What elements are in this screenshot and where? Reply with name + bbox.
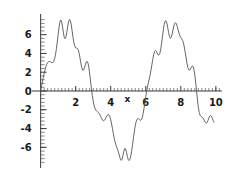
y-tick-label: 2 <box>25 67 32 78</box>
y-tick-label: -2 <box>21 104 32 115</box>
x-tick-label: 10 <box>209 97 223 108</box>
x-tick-label: 4 <box>107 97 114 108</box>
chart-container: 246810 -6-4-20246 x <box>0 0 235 175</box>
y-tick-label: 4 <box>25 48 32 59</box>
y-axis-tick-labels: -6-4-20246 <box>21 29 32 153</box>
y-tick-label: -4 <box>21 123 32 134</box>
y-tick-label: -6 <box>21 142 32 153</box>
x-axis-title: x <box>124 94 130 104</box>
y-tick-label: 0 <box>25 86 32 97</box>
x-tick-label: 8 <box>177 97 184 108</box>
y-tick-label: 6 <box>25 29 32 40</box>
line-chart: 246810 -6-4-20246 x <box>0 0 235 175</box>
x-tick-label: 2 <box>72 97 79 108</box>
